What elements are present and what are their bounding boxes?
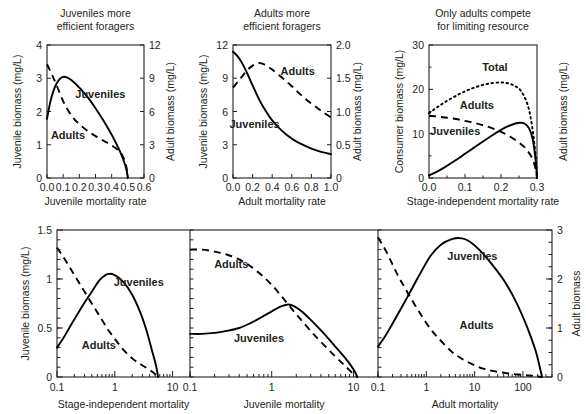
curve-annotation-adults: Adults bbox=[214, 258, 248, 270]
y-axis-label: Juvenile biomass (mg/L) bbox=[19, 247, 31, 361]
y-tick-label: 0 bbox=[36, 172, 42, 184]
y-tick-label: 30 bbox=[412, 39, 424, 51]
y-tick-right-label: 9 bbox=[149, 72, 155, 84]
panel-juvenile-mortality-log: 0.1110Juvenile mortalityAdultsJuveniles bbox=[183, 230, 378, 410]
y-tick-label: 12 bbox=[216, 39, 228, 51]
y-tick-label: 1.5 bbox=[37, 224, 52, 236]
x-tick-label: 0.4 bbox=[265, 181, 280, 193]
x-tick-label: 0.5 bbox=[121, 181, 136, 193]
panel-title-line1: Juveniles more bbox=[60, 7, 131, 19]
curve-adults bbox=[47, 64, 128, 178]
y-tick-label: 6 bbox=[222, 106, 228, 118]
y-tick-label: 0 bbox=[418, 172, 424, 184]
x-tick-label: 0.1 bbox=[458, 181, 473, 193]
x-tick-label: 1 bbox=[423, 381, 429, 393]
curve-annotation-total: Total bbox=[482, 61, 507, 73]
curve-adults bbox=[57, 248, 158, 377]
curve-annotation-adults: Adults bbox=[459, 319, 493, 331]
y-axis-label: Juvenile biomass (mg/L) bbox=[197, 55, 209, 169]
y-tick-right-label: 0 bbox=[557, 371, 563, 383]
x-tick-label: 100 bbox=[514, 381, 532, 393]
curve-annotation-adults: Adults bbox=[82, 339, 116, 351]
x-tick-label: 0.2 bbox=[72, 181, 87, 193]
x-axis-label: Adult mortality bbox=[432, 398, 499, 410]
panel-title-line1: Only adults compete bbox=[435, 7, 531, 19]
x-tick-label: 0.2 bbox=[245, 181, 260, 193]
curve-annotation-juveniles: Juveniles bbox=[234, 332, 284, 344]
panel-title-line1: Adults more bbox=[254, 7, 310, 19]
y-tick-right-label: 3 bbox=[149, 139, 155, 151]
figure-root: Juveniles moreefficient foragers0.00.10.… bbox=[0, 0, 586, 414]
y-tick-right-label: 1.0 bbox=[336, 106, 351, 118]
curve-annotation-adults: Adults bbox=[460, 99, 494, 111]
y-axis-right-label: Adult biomass bbox=[570, 271, 582, 337]
y-tick-label: 9 bbox=[222, 72, 228, 84]
panel-title-line2: for limiting resource bbox=[437, 20, 529, 32]
panel-title-line2: efficient foragers bbox=[243, 20, 320, 32]
x-tick-label: 0.2 bbox=[494, 181, 509, 193]
x-axis-label: Juvenile mortality rate bbox=[44, 195, 146, 207]
x-tick-label: 1 bbox=[112, 381, 118, 393]
x-tick-label: 0.1 bbox=[371, 381, 386, 393]
panel-juveniles-efficient: Juveniles moreefficient foragers0.00.10.… bbox=[11, 7, 176, 207]
panel-adult-mortality-log: 0.11101000123Adult mortalityAdult biomas… bbox=[371, 224, 582, 410]
y-tick-label: 10 bbox=[412, 128, 424, 140]
x-tick-label: 10 bbox=[469, 381, 481, 393]
y-tick-label: 0 bbox=[46, 371, 52, 383]
y-tick-right-label: 0 bbox=[336, 172, 342, 184]
y-axis-right-label: Adult biomass (mg/L) bbox=[351, 62, 363, 161]
figure-canvas: Juveniles moreefficient foragers0.00.10.… bbox=[0, 0, 586, 414]
y-tick-label: 1 bbox=[46, 273, 52, 285]
x-tick-label: 0.6 bbox=[284, 181, 299, 193]
curve-annotation-juveniles: Juveniles bbox=[447, 250, 497, 262]
x-tick-label: 0.3 bbox=[88, 181, 103, 193]
y-tick-right-label: 0 bbox=[149, 172, 155, 184]
curve-annotation-adults: Adults bbox=[281, 65, 315, 77]
plot-frame bbox=[47, 45, 144, 178]
y-axis-label: Consumer biomass (mg/L) bbox=[393, 50, 405, 174]
curve-annotation-juveniles: Juveniles bbox=[229, 118, 279, 130]
curve-annotation-juveniles: Juveniles bbox=[114, 276, 164, 288]
y-tick-label: 1 bbox=[36, 139, 42, 151]
panel-only-adults-compete: Only adults competefor limiting resource… bbox=[393, 7, 569, 207]
x-axis-label: Stage-independent mortality bbox=[58, 398, 190, 410]
panel-stage-independent-log: 0.111000.511.5Stage-independent mortalit… bbox=[19, 224, 190, 410]
y-tick-label: 3 bbox=[36, 72, 42, 84]
x-axis-label: Stage-independent mortality rate bbox=[407, 195, 560, 207]
y-tick-label: 0.5 bbox=[37, 322, 52, 334]
curve-annotation-adults: Adults bbox=[51, 129, 85, 141]
y-tick-label: 4 bbox=[36, 39, 42, 51]
x-tick-label: 10 bbox=[348, 381, 360, 393]
y-tick-right-label: 2 bbox=[557, 273, 563, 285]
y-tick-right-label: 1.5 bbox=[336, 72, 351, 84]
y-tick-right-label: 3 bbox=[557, 224, 563, 236]
y-tick-label: 2 bbox=[36, 106, 42, 118]
y-axis-label: Juvenile biomass (mg/L) bbox=[11, 55, 23, 169]
curve-annotation-juveniles: Juveniles bbox=[75, 88, 125, 100]
x-tick-label: 0.4 bbox=[104, 181, 119, 193]
y-tick-right-label: 12 bbox=[149, 39, 161, 51]
curve-annotation-juveniles: Juveniles bbox=[430, 125, 480, 137]
panel-title-line2: efficient foragers bbox=[57, 20, 134, 32]
curve-juveniles bbox=[57, 274, 158, 377]
x-tick-label: 0.1 bbox=[183, 381, 198, 393]
x-tick-label: 1 bbox=[269, 381, 275, 393]
y-axis-right-label: Adult biomass (mg/L) bbox=[557, 62, 569, 161]
y-axis-right-label: Adult biomass (mg/L) bbox=[164, 62, 176, 161]
panel-adults-efficient: Adults moreefficient foragers0.00.20.40.… bbox=[197, 7, 363, 207]
y-tick-right-label: 6 bbox=[149, 106, 155, 118]
x-tick-label: 0.1 bbox=[56, 181, 71, 193]
x-axis-label: Juvenile mortality bbox=[243, 398, 325, 410]
y-tick-label: 20 bbox=[412, 83, 424, 95]
y-tick-label: 0 bbox=[222, 172, 228, 184]
x-tick-label: 0.8 bbox=[304, 181, 319, 193]
y-tick-right-label: 2.0 bbox=[336, 39, 351, 51]
y-tick-right-label: 0.5 bbox=[336, 139, 351, 151]
x-tick-label: 0.3 bbox=[530, 181, 545, 193]
y-tick-label: 3 bbox=[222, 139, 228, 151]
x-tick-label: 10 bbox=[167, 381, 179, 393]
x-axis-label: Adult mortality rate bbox=[238, 195, 326, 207]
y-tick-right-label: 1 bbox=[557, 322, 563, 334]
